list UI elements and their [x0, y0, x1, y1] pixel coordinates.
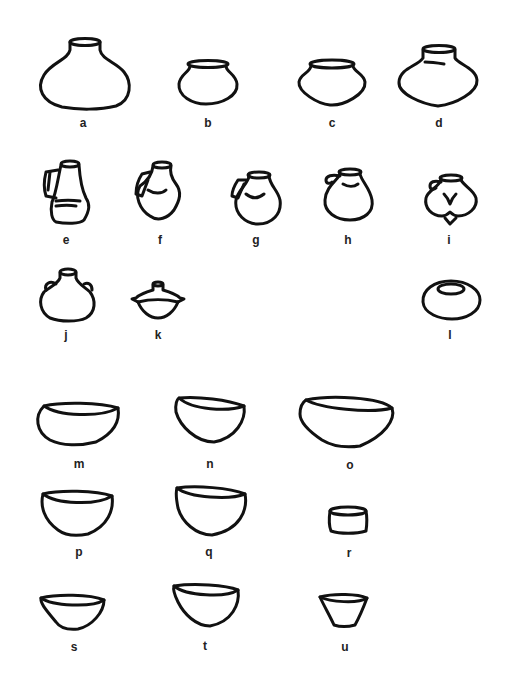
vessel-s [41, 595, 104, 629]
vessel-n [176, 397, 245, 442]
label-h: h [344, 233, 351, 247]
label-m: m [74, 457, 85, 471]
label-n: n [206, 457, 213, 471]
label-s: s [71, 640, 78, 654]
vessel-c [299, 60, 365, 105]
vessel-h [325, 169, 372, 220]
label-u: u [341, 640, 348, 654]
label-f: f [158, 233, 163, 247]
label-k: k [155, 328, 162, 342]
label-g: g [252, 233, 259, 247]
label-i: i [447, 233, 450, 247]
label-l: l [448, 328, 451, 342]
label-b: b [204, 116, 211, 130]
label-d: d [435, 116, 442, 130]
vessel-p [42, 491, 112, 535]
vessel-l [423, 281, 480, 319]
label-q: q [205, 545, 212, 559]
vessel-t [174, 585, 239, 626]
vessel-i [426, 175, 477, 224]
pottery-typology-figure: a b c d e f g [0, 0, 516, 685]
label-o: o [346, 458, 353, 472]
label-r: r [347, 546, 352, 560]
label-p: p [75, 545, 82, 559]
label-a: a [80, 116, 87, 130]
vessel-u [320, 594, 367, 626]
vessel-b [179, 61, 237, 105]
vessel-o [300, 397, 393, 446]
label-t: t [203, 639, 207, 653]
vessel-r [329, 507, 366, 533]
vessel-k [132, 282, 184, 318]
vessel-f [136, 162, 180, 219]
vessel-e [45, 161, 89, 223]
vessel-j [41, 269, 94, 321]
vessel-g [232, 172, 280, 224]
label-e: e [63, 233, 70, 247]
label-c: c [329, 116, 336, 130]
label-j: j [63, 328, 67, 342]
vessel-d [399, 46, 477, 107]
vessel-q [176, 487, 245, 535]
vessel-m [38, 403, 119, 445]
vessel-a [41, 39, 130, 110]
